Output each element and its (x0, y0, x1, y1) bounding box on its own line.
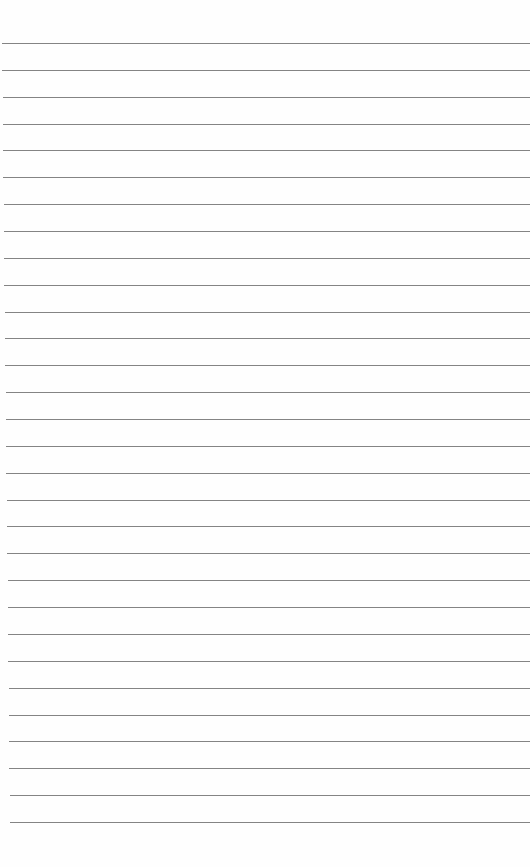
ruled-line (5, 312, 530, 313)
ruled-line (9, 741, 530, 742)
ruled-line (6, 392, 530, 393)
ruled-line (5, 338, 530, 339)
ruled-line (9, 688, 530, 689)
ruled-line (6, 419, 530, 420)
ruled-line (8, 661, 530, 662)
ruled-line (7, 526, 530, 527)
ruled-line (6, 446, 530, 447)
ruled-line (6, 473, 530, 474)
ruled-line (4, 285, 530, 286)
ruled-line (2, 70, 530, 71)
ruled-line (8, 634, 530, 635)
ruled-line (3, 150, 530, 151)
ruled-line (4, 231, 530, 232)
ruled-line (4, 204, 530, 205)
ruled-line (3, 97, 530, 98)
ruled-line (3, 124, 530, 125)
ruled-line (7, 553, 530, 554)
ruled-line (5, 365, 530, 366)
ruled-line (3, 177, 530, 178)
ruled-line (4, 258, 530, 259)
ruled-line (8, 580, 530, 581)
ruled-line (9, 715, 530, 716)
ruled-line (9, 768, 530, 769)
ruled-line (10, 795, 530, 796)
lined-paper-page (0, 0, 530, 867)
ruled-line (7, 500, 530, 501)
ruled-line (2, 43, 530, 44)
ruled-line (10, 822, 530, 823)
ruled-line (8, 607, 530, 608)
